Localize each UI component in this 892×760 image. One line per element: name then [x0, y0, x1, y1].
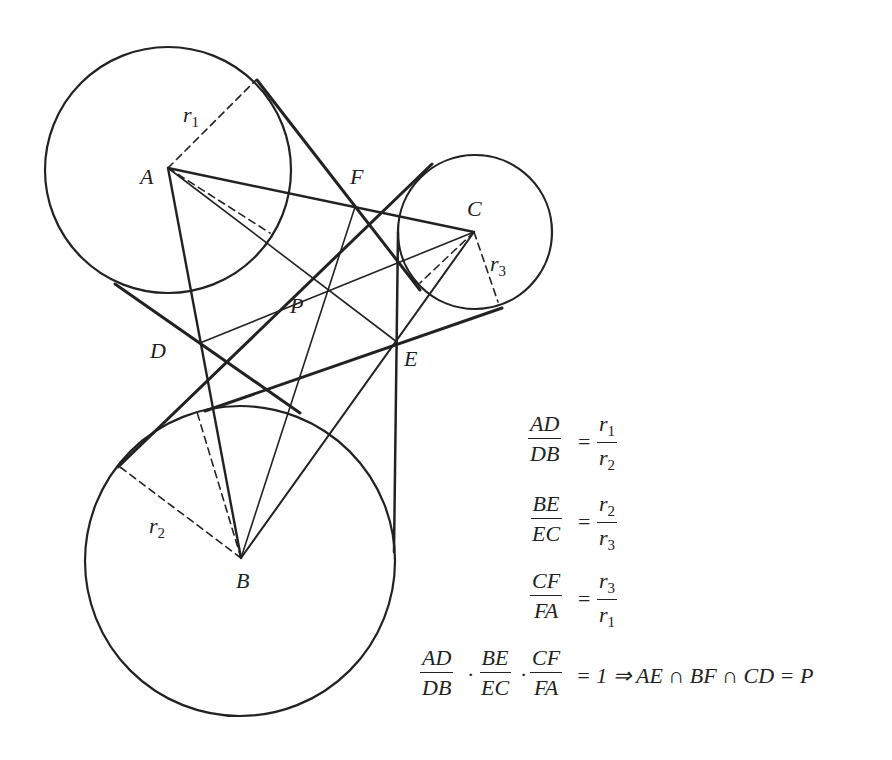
- formula4-conclusion: = 1 ⇒ AE ∩ BF ∩ CD = P: [576, 665, 813, 687]
- point-label-f: F: [350, 166, 363, 188]
- point-label-c: C: [467, 198, 482, 220]
- r2-subscript: 2: [158, 525, 166, 541]
- cevian-ae: [168, 168, 397, 342]
- frac-denominator: DB: [420, 673, 453, 699]
- r2-base: r: [149, 513, 158, 538]
- radius-r1: [168, 80, 256, 168]
- formula1-lhs: AD DB: [528, 413, 561, 465]
- r1-subscript: 1: [192, 114, 200, 130]
- tangent-vertical-through-e: [394, 232, 398, 552]
- formula3-lhs: CF FA: [530, 570, 562, 622]
- formula4-frac-cf-fa: CF FA: [530, 647, 562, 699]
- frac-denominator: EC: [479, 673, 511, 699]
- r3-subscript: 3: [499, 263, 507, 279]
- radius-r2: [120, 467, 241, 558]
- radius-label-r2: r2: [149, 515, 165, 541]
- frac-denominator: r1: [597, 600, 617, 630]
- radius-c-to-tangent: [420, 232, 474, 283]
- formula2-equals: =: [578, 511, 590, 533]
- formula4-dot-1: ·: [467, 664, 474, 686]
- tangent-b-c-through-df: [118, 164, 432, 467]
- formula4-frac-be-ec: BE EC: [479, 647, 511, 699]
- frac-denominator: r3: [597, 523, 617, 553]
- tangent-a-b-through-d: [115, 284, 300, 413]
- radius-label-r3: r3: [490, 253, 506, 279]
- frac-numerator: AD: [420, 647, 453, 673]
- frac-numerator: BE: [480, 647, 511, 673]
- frac-numerator: CF: [530, 647, 562, 673]
- point-label-d: D: [150, 340, 166, 362]
- formula2-rhs: r2 r3: [597, 493, 617, 553]
- formula4-dot-2: ·: [520, 664, 527, 686]
- r1-base: r: [183, 102, 192, 127]
- frac-denominator: DB: [528, 439, 561, 465]
- formula4-frac-ad-db: AD DB: [420, 647, 453, 699]
- frac-numerator: AD: [528, 413, 561, 439]
- radius-b-to-tangent: [197, 412, 241, 558]
- radius-label-r1: r1: [183, 104, 199, 130]
- frac-numerator: CF: [530, 570, 562, 596]
- segment-ac: [168, 168, 474, 232]
- cevian-cd: [200, 232, 474, 343]
- formula1-equals: =: [578, 431, 590, 453]
- formula2-lhs: BE EC: [530, 493, 562, 545]
- formula3-equals: =: [578, 588, 590, 610]
- formula1-rhs: r1 r2: [597, 413, 617, 473]
- point-label-p: P: [290, 295, 303, 317]
- frac-denominator: r2: [597, 443, 617, 473]
- frac-numerator: r3: [597, 570, 617, 600]
- point-label-e: E: [404, 348, 417, 370]
- frac-denominator: FA: [532, 596, 560, 622]
- frac-denominator: FA: [532, 673, 560, 699]
- point-label-b: B: [236, 570, 249, 592]
- point-label-a: A: [140, 166, 153, 188]
- r3-base: r: [490, 251, 499, 276]
- frac-numerator: r2: [597, 493, 617, 523]
- formula3-rhs: r3 r1: [597, 570, 617, 630]
- frac-numerator: BE: [531, 493, 562, 519]
- frac-denominator: EC: [530, 519, 562, 545]
- frac-numerator: r1: [597, 413, 617, 443]
